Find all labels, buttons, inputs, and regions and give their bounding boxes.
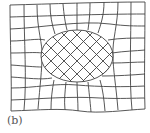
figure-label: (b): [7, 114, 23, 127]
inclusion-rotated-grid: [0, 30, 150, 90]
outer-grid: [10, 2, 145, 112]
